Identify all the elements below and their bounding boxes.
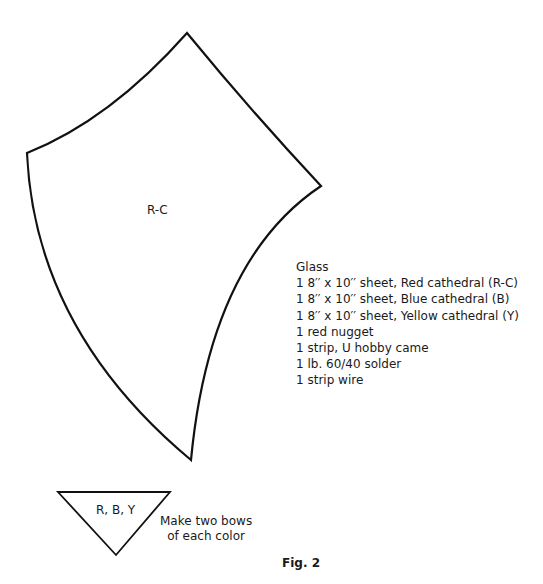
material-item: 1 8′′ x 10′′ sheet, Red cathedral (R-C) (296, 275, 519, 291)
material-item: 1 lb. 60/40 solder (296, 356, 519, 372)
material-item: 1 8′′ x 10′′ sheet, Blue cathedral (B) (296, 291, 519, 307)
main-piece-label: R-C (147, 203, 168, 217)
materials-list: Glass 1 8′′ x 10′′ sheet, Red cathedral … (296, 259, 519, 389)
material-item: 1 red nugget (296, 324, 519, 340)
material-item: 1 8′′ x 10′′ sheet, Yellow cathedral (Y) (296, 308, 519, 324)
materials-heading: Glass (296, 259, 519, 275)
note-line-1: Make two bows (160, 514, 252, 529)
bow-instruction: Make two bows of each color (160, 514, 252, 544)
bow-triangle-outline (58, 492, 170, 555)
bow-piece-label: R, B, Y (96, 503, 135, 517)
material-item: 1 strip, U hobby came (296, 340, 519, 356)
note-line-2: of each color (160, 529, 252, 544)
figure-caption: Fig. 2 (282, 556, 320, 570)
material-item: 1 strip wire (296, 372, 519, 388)
main-piece-outline (27, 33, 321, 460)
